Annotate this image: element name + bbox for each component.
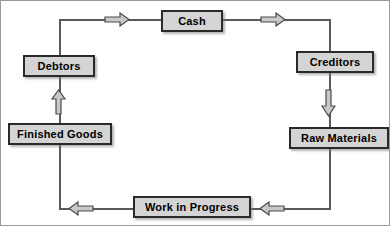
line-left-upper xyxy=(59,19,61,57)
node-creditors-label: Creditors xyxy=(310,56,361,68)
node-work-in-progress-label: Work in Progress xyxy=(145,201,239,213)
arrow-right-icon-top-right xyxy=(260,12,286,27)
node-work-in-progress[interactable]: Work in Progress xyxy=(133,196,251,218)
node-debtors[interactable]: Debtors xyxy=(23,55,95,77)
line-right-lower xyxy=(329,147,331,210)
line-left-lower xyxy=(59,143,61,210)
arrow-right-icon-top-left xyxy=(104,12,130,27)
node-cash[interactable]: Cash xyxy=(161,10,223,32)
node-finished-goods-label: Finished Goods xyxy=(17,128,103,140)
node-raw-materials-label: Raw Materials xyxy=(301,132,377,144)
node-raw-materials[interactable]: Raw Materials xyxy=(289,127,389,149)
node-finished-goods[interactable]: Finished Goods xyxy=(8,123,112,145)
arrow-up-icon-debtors-inflow xyxy=(51,89,66,115)
arrow-left-icon-raw-materials-to-wip xyxy=(259,201,285,216)
node-creditors[interactable]: Creditors xyxy=(296,51,374,73)
arrow-down-icon-creditors-to-raw-materials xyxy=(321,89,336,117)
arrow-left-icon-wip-to-finished-goods xyxy=(68,201,94,216)
diagram-canvas: Cash Debtors Creditors Finished Goods Ra… xyxy=(0,0,390,226)
node-debtors-label: Debtors xyxy=(38,60,81,72)
line-right-upper xyxy=(329,19,331,53)
node-cash-label: Cash xyxy=(178,15,206,27)
